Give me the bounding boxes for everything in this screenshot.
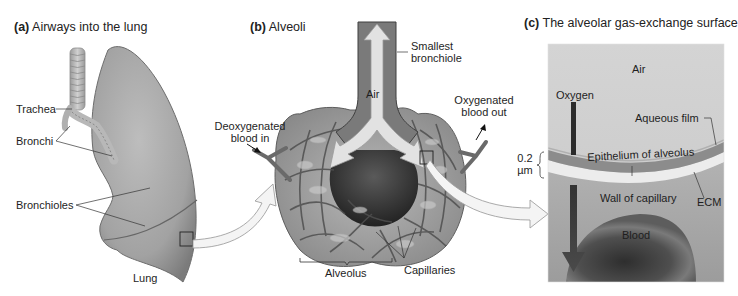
oxygenated-flow-arrow: [476, 124, 486, 140]
alveoli-air-label: Air: [366, 88, 379, 100]
oxygen-diffusion-bar: [571, 102, 576, 155]
connector-arrow-a-to-b: [193, 184, 276, 248]
panel-b-letter: (b): [250, 20, 266, 34]
ecm-label: ECM: [697, 196, 721, 208]
panel-c-title-text: The alveolar gas-exchange surface: [543, 16, 738, 30]
panel-a-illustration: [56, 47, 276, 282]
panel-b-title: (b) Alveoli: [250, 20, 306, 34]
smallest-bronchiole-label-line1: Smallest: [411, 40, 453, 52]
panel-c-illustration: [548, 44, 724, 282]
panel-c-title: (c) The alveolar gas-exchange surface: [524, 16, 738, 30]
alveolus-label: Alveolus: [325, 267, 367, 279]
wall-of-capillary-label: Wall of capillary: [600, 192, 677, 204]
panel-a-title: (a) Airways into the lung: [14, 20, 147, 34]
thickness-value-label: 0.2: [514, 152, 536, 164]
bronchi-label: Bronchi: [16, 135, 53, 147]
panel-c-letter: (c): [524, 16, 539, 30]
surface-air-label: Air: [632, 63, 645, 75]
oxygenated-label-line1: Oxygenated: [448, 94, 520, 106]
bronchioles-label: Bronchioles: [16, 199, 73, 211]
deoxygenated-label-line2: blood in: [210, 132, 290, 144]
deoxygenated-label-line1: Deoxygenated: [210, 120, 290, 132]
trachea-illustration: [70, 48, 85, 110]
lung-label: Lung: [133, 272, 157, 284]
capillaries-label: Capillaries: [404, 264, 455, 276]
panel-a-title-text: Airways into the lung: [32, 20, 147, 34]
oxygenated-label-line2: blood out: [448, 106, 520, 118]
panel-a-letter: (a): [14, 20, 29, 34]
trachea-label: Trachea: [16, 103, 56, 115]
lung-illustration: [92, 47, 196, 282]
panel-b-illustration: [247, 22, 548, 266]
aqueous-film-label: Aqueous film: [635, 112, 699, 124]
blood-label: Blood: [622, 229, 650, 241]
oxygen-label: Oxygen: [556, 89, 594, 101]
smallest-bronchiole-label-line2: bronchiole: [411, 52, 462, 64]
panel-b-title-text: Alveoli: [269, 20, 306, 34]
thickness-brace: [537, 152, 544, 178]
thickness-unit-label: µm: [514, 164, 536, 176]
